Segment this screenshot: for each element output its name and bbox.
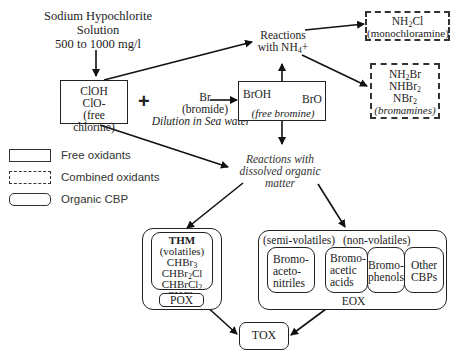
other-cbps-box: Other CBPs: [404, 247, 444, 293]
source-line-3: 500 to 1000 mg/l: [8, 37, 188, 51]
legend-label-combined-oxidants: Combined oxidants: [61, 171, 159, 183]
semi-volatiles-label: (semi-volatiles): [263, 234, 335, 246]
ammonium-reaction-label: Reactions with NH4+: [248, 29, 318, 53]
bromoacetonitriles-line-2: aceto-: [273, 265, 314, 277]
legend-swatch-dashed: [9, 171, 51, 184]
source-label: Sodium Hypochlorite Solution 500 to 1000…: [8, 9, 188, 51]
bromoacetonitriles-box: Bromo- aceto- nitriles: [267, 247, 315, 293]
non-volatiles-label: (non-volatiles): [343, 234, 411, 246]
bromophenols-box: Bromo- phenols: [367, 247, 405, 293]
bromoacetonitriles-line-1: Bromo-: [273, 253, 314, 265]
bromine-hypobromous: BrOH: [243, 88, 271, 100]
legend-label-free-oxidants: Free oxidants: [61, 149, 131, 161]
organic-reaction-line-3: matter: [225, 177, 335, 189]
bromoacetonitriles-line-3: nitriles: [273, 277, 314, 289]
bromamine-formula-1: NH2Br: [372, 68, 438, 80]
eox-group-outer: (semi-volatiles) (non-volatiles) Bromo- …: [258, 230, 447, 310]
source-line-2: Solution: [8, 23, 188, 37]
bromamines-box: NH2Br NHBr2 NBr2 (bromamines): [370, 63, 440, 119]
other-cbps-line-2: CBPs: [405, 271, 443, 283]
thm-inner-box: THM (volatiles) CHBr3 CHBr2Cl CHBrCl2 CH…: [151, 232, 213, 290]
ammonium-reaction-line-1: Reactions: [248, 29, 318, 41]
eox-label: EOX: [259, 295, 448, 307]
free-chlorine-label: (free chlorine): [61, 109, 127, 133]
monochloramine-box: NH2Cl (monochloramine): [365, 11, 450, 41]
bromoacetic-acids-box: Bromo- acetic acids: [325, 247, 368, 293]
nbr2-a: NBr: [393, 92, 413, 104]
nh2br-b: Br: [410, 68, 422, 80]
bromoacetic-acids-line-1: Bromo-: [330, 252, 367, 264]
legend-label-organic-cbp: Organic CBP: [61, 193, 128, 205]
pox-box: POX: [159, 293, 204, 307]
free-bromine-label: (free bromine): [239, 107, 327, 119]
monochloramine-label: (monochloramine): [367, 27, 448, 39]
free-chlorine-box: ClOH ClO- (free chlorine): [60, 80, 128, 124]
organic-reaction-line-2: dissolved organic: [225, 165, 335, 177]
nh2cl-a: NH: [392, 15, 409, 27]
organic-reaction-line-1: Reactions with: [225, 153, 335, 165]
legend: Free oxidants Combined oxidants Organic …: [9, 149, 169, 219]
source-line-1: Sodium Hypochlorite: [8, 9, 188, 23]
bromophenols-line-1: Bromo-: [368, 259, 404, 271]
bromamine-formula-3: NBr2: [372, 92, 438, 104]
bromophenols-line-2: phenols: [368, 271, 404, 283]
nh-charge: +: [302, 41, 309, 53]
legend-swatch-solid: [9, 149, 51, 162]
legend-swatch-rounded: [9, 193, 51, 206]
ammonium-reaction-line-2: with NH4+: [248, 41, 318, 53]
other-cbps-line-1: Other: [405, 259, 443, 271]
free-bromine-box: BrOH BrO (free bromine): [238, 81, 326, 121]
monochloramine-formula: NH2Cl: [367, 15, 448, 27]
free-chlorine-formula-1: ClOH: [61, 85, 127, 97]
free-chlorine-formula-2: ClO-: [61, 97, 127, 109]
bromoacetic-acids-line-3: acids: [330, 276, 367, 288]
thm-group-outer: THM (volatiles) CHBr3 CHBr2Cl CHBrCl2 CH…: [142, 228, 222, 310]
chbrcl2-sub: 2: [198, 283, 202, 292]
bromoacetic-acids-line-2: acetic: [330, 264, 367, 276]
bromine-hypobromite: BrO: [302, 93, 322, 105]
organic-reaction-label: Reactions with dissolved organic matter: [225, 153, 335, 189]
plus-sign: +: [138, 90, 150, 113]
bromamines-label: (bromamines): [372, 104, 438, 116]
nh2cl-b: Cl: [412, 15, 423, 27]
nh-text: with NH: [258, 41, 298, 53]
bromamine-formula-2: NHBr2: [372, 80, 438, 92]
nhbr2-a: NHBr: [389, 80, 417, 92]
nh2br-a: NH: [389, 68, 406, 80]
nhbr2-sub: 2: [417, 85, 421, 94]
tox-box: TOX: [239, 322, 289, 350]
